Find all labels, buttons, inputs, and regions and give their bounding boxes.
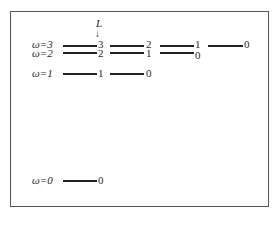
energy-level-line xyxy=(110,45,144,47)
energy-level-line xyxy=(160,45,194,47)
l-value-label: 0 xyxy=(146,68,152,79)
energy-level-line xyxy=(63,73,97,75)
energy-level-line xyxy=(208,45,243,47)
l-value-label: 0 xyxy=(98,175,104,186)
energy-level-line xyxy=(63,52,97,54)
energy-level-line xyxy=(63,180,97,182)
energy-level-line xyxy=(63,45,97,47)
l-value-label: 0 xyxy=(244,39,250,50)
omega-label: ω=0 xyxy=(32,175,53,186)
omega-label: ω=2 xyxy=(32,48,53,59)
l-value-label: 1 xyxy=(98,68,104,79)
energy-level-line xyxy=(110,52,144,54)
l-value-label: 2 xyxy=(98,48,104,59)
omega-label: ω=1 xyxy=(32,68,53,79)
l-value-label: 0 xyxy=(195,50,201,61)
l-value-label: 1 xyxy=(146,48,152,59)
energy-level-line xyxy=(160,52,194,54)
energy-level-line xyxy=(110,73,144,75)
